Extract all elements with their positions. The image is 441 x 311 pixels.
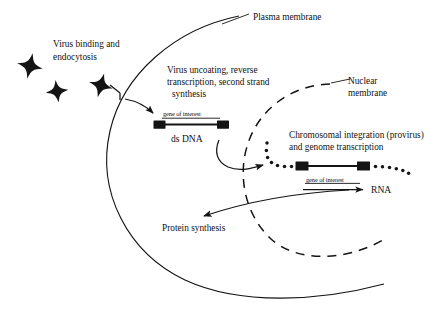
label-virus-binding-line2: endocytosis [53,52,97,62]
label-plasma-membrane: Plasma membrane [253,12,321,22]
label-ds-dna: ds DNA [171,133,203,144]
arrow-rna-to-protein [204,190,349,216]
label-nuclear-membrane-line2: membrane [348,88,387,98]
ds-dna-ltr-right [217,121,229,129]
label-gene-of-interest-dsdna: gene of interest [163,110,201,117]
label-uncoating-line2: transcription, second strand [167,77,270,87]
ds-dna-ltr-left [154,121,166,129]
virus-particle-2 [44,79,70,105]
provirus-ltr-right [357,162,370,171]
diagram-svg: Virus binding and endocytosis Plasma mem… [0,0,441,311]
figure-canvas: Virus binding and endocytosis Plasma mem… [0,0,441,311]
label-uncoating-line1: Virus uncoating, reverse [167,65,258,75]
plasma-membrane-arc [107,16,384,298]
label-integration-line1: Chromosomal integration (provirus) [289,130,424,141]
chromosome-arm-right [374,165,411,175]
label-integration-line2: and genome transcription [289,142,384,152]
virus-particle-3-bound [86,70,116,100]
virus-particle-1 [15,51,46,82]
label-nuclear-membrane-line1: Nuclear [348,76,378,86]
label-virus-binding-line1: Virus binding and [53,39,120,49]
arrow-uncoating-to-dsdna [125,99,153,113]
label-protein-synthesis: Protein synthesis [162,223,226,233]
virus-receptor-tick [110,85,120,100]
arrow-dsdna-to-nucleus [217,140,263,169]
provirus-ltr-left [296,162,309,171]
transcription-arrow-group [303,183,363,189]
label-gene-of-interest-rna: gene of interest [306,176,344,183]
label-uncoating-line3: synthesis [172,89,206,99]
ds-dna-construct [154,118,230,129]
label-rna: RNA [371,184,391,195]
